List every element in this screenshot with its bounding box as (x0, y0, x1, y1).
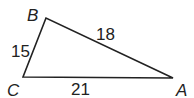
side-label-bc: 15 (11, 42, 30, 61)
side-label-ca: 21 (71, 80, 90, 98)
triangle-diagram: B C A 15 18 21 (0, 0, 194, 98)
vertex-label-a: A (175, 81, 187, 98)
vertex-label-c: C (7, 81, 20, 98)
side-label-ba: 18 (96, 25, 115, 44)
vertex-label-b: B (27, 6, 38, 25)
